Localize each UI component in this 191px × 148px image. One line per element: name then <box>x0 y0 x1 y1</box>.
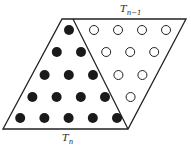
filled-dot <box>52 47 62 57</box>
filled-dot <box>112 113 122 123</box>
filled-dot <box>76 92 86 102</box>
triangular-number-diagram: Tn−1 Tn <box>0 0 191 148</box>
parallelogram-figure <box>0 0 191 148</box>
label-tn: Tn <box>62 133 73 146</box>
filled-dots-Tn <box>15 25 122 123</box>
open-dot <box>150 48 159 57</box>
open-dot <box>102 48 111 57</box>
label-tn-minus-1: Tn−1 <box>120 4 142 17</box>
filled-dot <box>88 70 98 80</box>
open-dots-Tn-1 <box>90 26 171 102</box>
open-dot <box>114 71 123 80</box>
filled-dot <box>40 70 50 80</box>
open-dot <box>126 93 135 102</box>
filled-dot <box>39 113 49 123</box>
filled-dot <box>27 92 37 102</box>
open-dot <box>138 71 147 80</box>
open-dot <box>126 48 135 57</box>
filled-dot <box>88 113 98 123</box>
open-dot <box>138 26 147 35</box>
open-dot <box>162 26 171 35</box>
filled-dot <box>76 47 86 57</box>
open-dot <box>114 26 123 35</box>
filled-dot <box>15 113 25 123</box>
filled-dot <box>64 70 74 80</box>
open-dot <box>90 26 99 35</box>
filled-dot <box>64 25 74 35</box>
filled-dot <box>52 92 62 102</box>
filled-dot <box>100 92 110 102</box>
filled-dot <box>64 113 74 123</box>
